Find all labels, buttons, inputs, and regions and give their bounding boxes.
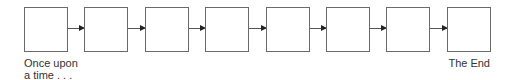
arrow-connector	[68, 28, 84, 29]
sequence-box-1	[24, 7, 68, 52]
sequence-box-3	[145, 7, 189, 52]
end-label: The End	[448, 57, 490, 69]
start-label-line-1: Once upon	[24, 57, 104, 69]
sequence-box-6	[326, 7, 370, 52]
sequence-box-5	[266, 7, 310, 52]
arrow-connector	[370, 28, 386, 29]
start-label: Once upon a time . . .	[24, 57, 104, 80]
arrow-connector	[249, 28, 266, 29]
start-label-line-2: a time . . .	[24, 69, 104, 80]
sequence-box-4	[205, 7, 249, 52]
arrow-connector	[310, 28, 326, 29]
sequence-box-2	[84, 7, 128, 52]
arrow-connector	[189, 28, 205, 29]
sequence-box-7	[386, 7, 430, 52]
sequence-box-8	[447, 7, 491, 52]
arrow-connector	[430, 28, 447, 29]
arrow-connector	[128, 28, 145, 29]
